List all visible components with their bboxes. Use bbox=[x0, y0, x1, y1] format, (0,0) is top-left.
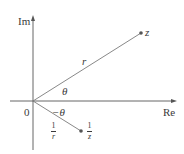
frac-denominator: z bbox=[88, 133, 91, 141]
frac-numerator: 1 bbox=[88, 122, 92, 130]
segment-r-label: r bbox=[82, 56, 86, 67]
complex-plane-diagram: Im Re 0 z r θ −θ 1 r 1 z bbox=[0, 0, 184, 154]
angle-theta-label: θ bbox=[62, 86, 67, 97]
point-z bbox=[139, 31, 143, 35]
angle-neg-theta-label: −θ bbox=[52, 107, 65, 118]
segment-inv-r-label: 1 r bbox=[51, 122, 56, 141]
point-inv-z bbox=[79, 129, 83, 133]
real-axis-label: Re bbox=[163, 107, 175, 118]
point-z-label: z bbox=[145, 27, 149, 38]
frac-denominator: r bbox=[52, 133, 55, 141]
imaginary-axis-arrow-icon bbox=[31, 15, 35, 21]
imaginary-axis-label: Im bbox=[18, 16, 30, 27]
real-axis-arrow-icon bbox=[171, 99, 177, 103]
frac-numerator: 1 bbox=[52, 122, 56, 130]
point-inv-z-label: 1 z bbox=[87, 122, 92, 141]
segment-r bbox=[33, 33, 141, 101]
origin-label: 0 bbox=[24, 107, 30, 118]
